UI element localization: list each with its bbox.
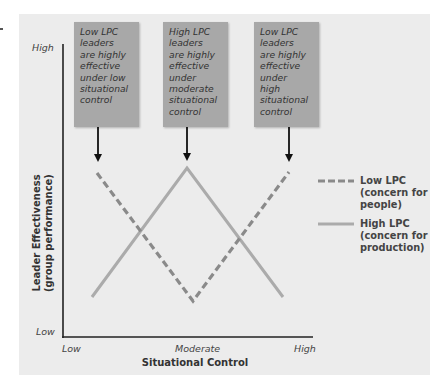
legend-text: production): [360, 242, 427, 254]
callout-moderate-control: High LPC leaders are highly effective un…: [163, 22, 228, 127]
series-low-lpc-line: [97, 172, 289, 301]
callout-text: leaders: [169, 37, 225, 48]
callout-text: control: [80, 94, 136, 105]
legend-item-low-lpc: Low LPC (concern for people): [360, 175, 427, 211]
callout-high-control: Low LPC leaders are highly effective und…: [254, 22, 319, 127]
callout-text: effective: [80, 60, 136, 71]
callout-text: leaders: [260, 37, 316, 48]
callout-text: control: [260, 106, 316, 117]
x-tick-low: Low: [62, 343, 81, 354]
callout-text: effective: [260, 60, 316, 71]
callout-text: are highly: [260, 49, 316, 60]
callout-text: effective: [169, 60, 225, 71]
arrow-icon: [94, 127, 102, 162]
arrow-icon: [183, 127, 191, 161]
series-high-lpc-line: [92, 168, 283, 297]
callout-text: control: [169, 106, 225, 117]
x-axis-title: Situational Control: [120, 357, 270, 368]
legend-text: (concern for: [360, 187, 427, 199]
callout-text: Low LPC: [260, 26, 316, 37]
y-axis-title: Leader Effectiveness (group performance): [31, 174, 55, 292]
x-tick-moderate: Moderate: [175, 343, 220, 354]
callout-text: leaders: [80, 37, 136, 48]
callout-text: High LPC: [169, 26, 225, 37]
legend-text: Low LPC: [360, 175, 427, 187]
callout-text: moderate: [169, 83, 225, 94]
callout-text: situational: [169, 94, 225, 105]
legend-text: people): [360, 199, 427, 211]
x-tick-high: High: [294, 343, 316, 354]
callout-text: under: [260, 72, 316, 83]
y-axis-title-line: Leader Effectiveness: [31, 174, 43, 292]
callout-text: are highly: [169, 49, 225, 60]
legend-text: High LPC: [360, 218, 427, 230]
callout-text: under: [169, 72, 225, 83]
callout-text: Low LPC: [80, 26, 136, 37]
y-axis-title-line: (group performance): [43, 174, 55, 292]
callout-low-control: Low LPC leaders are highly effective und…: [74, 22, 139, 127]
y-axis-high-label: High: [32, 42, 54, 53]
callout-text: under low: [80, 72, 136, 83]
y-axis-low-label: Low: [36, 326, 55, 337]
callout-text: high: [260, 83, 316, 94]
callout-text: situational: [80, 83, 136, 94]
callout-text: are highly: [80, 49, 136, 60]
arrow-icon: [285, 127, 293, 162]
legend-text: (concern for: [360, 230, 427, 242]
callout-text: situational: [260, 94, 316, 105]
legend-item-high-lpc: High LPC (concern for production): [360, 218, 427, 254]
